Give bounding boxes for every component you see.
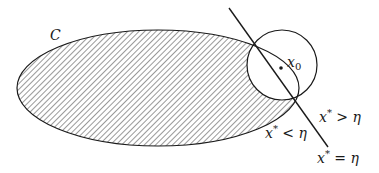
diagram-canvas: C x0 x* > η x* < η x* = η (0, 0, 379, 173)
label-x-greater-eta: x* > η (319, 107, 362, 125)
x0-label: x0 (287, 54, 301, 72)
region-label-c: C (50, 27, 61, 43)
x0-point (279, 66, 283, 70)
label-x-less-eta: x* < η (265, 123, 308, 141)
label-x-equal-eta: x* = η (317, 148, 360, 166)
